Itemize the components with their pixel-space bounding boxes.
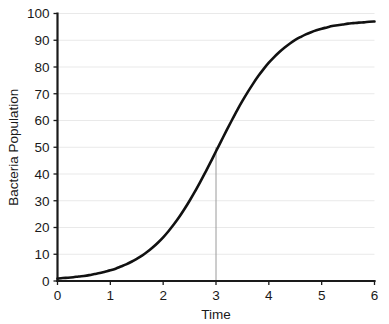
x-tick-label-3: 3: [212, 288, 220, 303]
x-axis-title: Time: [201, 307, 231, 322]
y-tick-label-70: 70: [34, 87, 49, 102]
chart-canvas: 0102030405060708090100 0123456 Time Bact…: [0, 0, 389, 324]
x-tick-label-4: 4: [265, 288, 273, 303]
y-tick-label-40: 40: [34, 167, 49, 182]
y-axis-title: Bacteria Population: [6, 89, 21, 206]
x-tick-label-0: 0: [54, 288, 62, 303]
y-tick-label-50: 50: [34, 140, 49, 155]
y-tick-label-90: 90: [34, 33, 49, 48]
y-tick-label-100: 100: [27, 6, 50, 21]
y-tick-label-0: 0: [42, 274, 50, 289]
x-tick-label-5: 5: [318, 288, 326, 303]
y-tick-label-80: 80: [34, 60, 49, 75]
y-tick-label-10: 10: [34, 247, 49, 262]
x-tick-label-6: 6: [371, 288, 379, 303]
bacteria-growth-chart: 0102030405060708090100 0123456 Time Bact…: [0, 0, 389, 324]
x-tick-label-2: 2: [159, 288, 167, 303]
y-tick-label-60: 60: [34, 113, 49, 128]
y-tick-label-30: 30: [34, 194, 49, 209]
y-tick-label-20: 20: [34, 220, 49, 235]
x-tick-label-1: 1: [107, 288, 115, 303]
